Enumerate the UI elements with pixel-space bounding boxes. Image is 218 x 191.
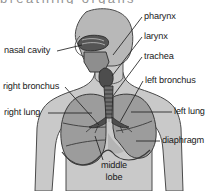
label-nasal-cavity: nasal cavity: [4, 45, 50, 56]
label-left-lung: left lung: [174, 106, 205, 117]
label-middle-lobe: middle lobe: [92, 160, 136, 183]
larynx-shape: [99, 68, 113, 88]
label-right-bronchus: right bronchus: [3, 81, 59, 92]
leader-line-nasal-cavity: [57, 45, 82, 51]
nasal-cavity-shape: [78, 35, 108, 51]
label-pharynx: pharynx: [144, 11, 176, 22]
label-larynx: larynx: [144, 31, 168, 42]
label-right-lung: right lung: [4, 107, 40, 118]
label-middle-lobe-line2: lobe: [106, 172, 123, 182]
label-trachea: trachea: [144, 51, 174, 62]
label-middle-lobe-line1: middle: [101, 160, 127, 170]
label-diaphragm: diaphragm: [162, 135, 204, 146]
label-left-bronchus: left bronchus: [145, 75, 196, 86]
